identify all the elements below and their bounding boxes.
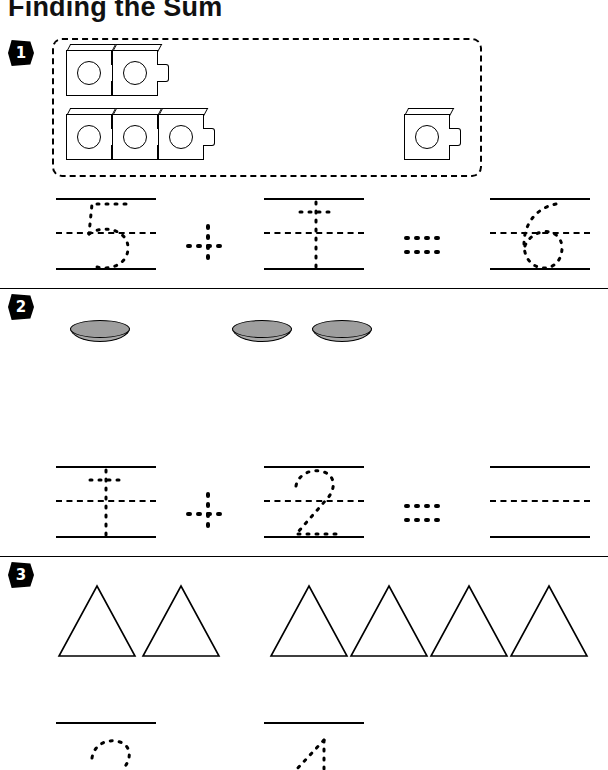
- cube-hole: [77, 125, 101, 149]
- problem-number-2: 2: [8, 294, 34, 320]
- sum-traced-6: [512, 196, 570, 274]
- section-divider: [0, 556, 608, 557]
- coin-face: [232, 320, 292, 338]
- cube-hole: [415, 125, 439, 149]
- equals-sign-1: [398, 222, 454, 266]
- triangle: [56, 582, 138, 660]
- answer-line-bottom: [490, 536, 590, 538]
- triangle: [140, 582, 222, 660]
- section-divider: [0, 288, 608, 289]
- cube-connector: [157, 64, 169, 82]
- triangle: [428, 582, 510, 660]
- addend-1-traced-5: [78, 196, 140, 274]
- problem-number-1: 1: [8, 40, 34, 66]
- triangle: [348, 582, 430, 660]
- triangle: [508, 582, 590, 660]
- addend-2-dotted-4: [286, 730, 344, 770]
- answer-line-middle: [490, 500, 590, 502]
- cube-connector: [203, 128, 215, 146]
- plus-sign-2: [180, 486, 236, 542]
- addend-2-traced-1: [292, 196, 342, 274]
- problem-number-3: 3: [8, 562, 34, 588]
- coin-face: [70, 320, 130, 338]
- answer-line-top: [56, 722, 156, 724]
- addend-1-dotted-2: [82, 730, 140, 770]
- page-title: Finding the Sum: [8, 0, 222, 23]
- cube-hole: [123, 61, 147, 85]
- cube-hole: [77, 61, 101, 85]
- cube-connector: [449, 128, 461, 146]
- addend-1-traced-1: [82, 464, 132, 542]
- plus-sign-1: [180, 218, 236, 274]
- cube-hole: [169, 125, 193, 149]
- coin-face: [312, 320, 372, 338]
- addend-2-traced-2: [286, 464, 344, 542]
- triangle: [268, 582, 350, 660]
- equals-sign-2: [398, 490, 454, 534]
- cube-hole: [123, 125, 147, 149]
- answer-line-top: [490, 466, 590, 468]
- answer-line-top: [264, 722, 364, 724]
